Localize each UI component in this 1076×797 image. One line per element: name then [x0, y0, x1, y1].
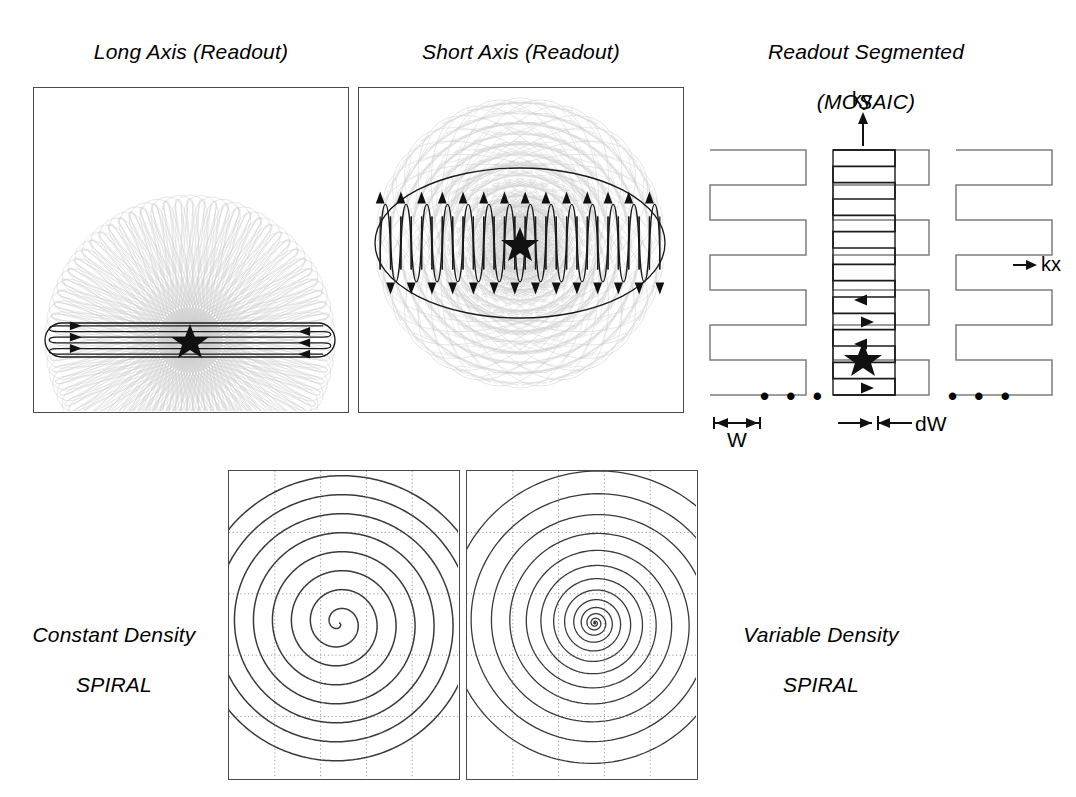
short-axis-propeller-plot — [359, 88, 682, 411]
w-dimension-label: W — [727, 428, 747, 452]
panel-title-line1: Variable Density — [706, 622, 936, 647]
panel-readout-segmented-mosaic: ky kx • • • • • • — [700, 110, 1076, 410]
panel-title-constant-density-spiral: Constant Density SPIRAL — [6, 597, 222, 722]
kspace-center-star-icon — [844, 342, 882, 376]
dimension-arrows — [700, 405, 1076, 435]
panel-title-line2: SPIRAL — [706, 672, 936, 697]
panel-short-axis-propeller — [358, 87, 684, 413]
spiral-trajectory — [467, 471, 696, 763]
propeller-blade-group — [44, 194, 336, 411]
constant-density-spiral-plot — [229, 471, 458, 778]
panel-title-line1: Long Axis (Readout) — [33, 39, 349, 64]
ky-axis-label: ky — [852, 88, 872, 111]
panel-title-variable-density-spiral: Variable Density SPIRAL — [706, 597, 936, 722]
panel-variable-density-spiral — [466, 470, 698, 780]
mosaic-dimensions: W dW — [700, 405, 1076, 457]
panel-title-line1: Short Axis (Readout) — [358, 39, 684, 64]
dw-dimension-arrow-icon — [838, 416, 912, 430]
kx-axis-arrow-icon — [1013, 260, 1037, 270]
mosaic-plot — [700, 110, 1076, 410]
spiral-trajectory — [229, 476, 458, 761]
ky-axis-arrow-icon — [858, 112, 868, 146]
long-axis-propeller-plot — [34, 88, 347, 411]
panel-long-axis-propeller — [33, 87, 349, 413]
figure-root: Long Axis (Readout) PROPELLER Short Axis… — [0, 0, 1076, 797]
dw-dimension-label: dW — [915, 412, 947, 436]
panel-constant-density-spiral — [228, 470, 460, 780]
spiral-grid — [229, 471, 458, 778]
panel-title-line1: Constant Density — [6, 622, 222, 647]
panel-title-line1: Readout Segmented — [716, 39, 1016, 64]
panel-title-line2: SPIRAL — [6, 672, 222, 697]
epi-segment-group — [710, 150, 1052, 395]
variable-density-spiral-plot — [467, 471, 696, 778]
kx-axis-label: kx — [1041, 253, 1061, 276]
